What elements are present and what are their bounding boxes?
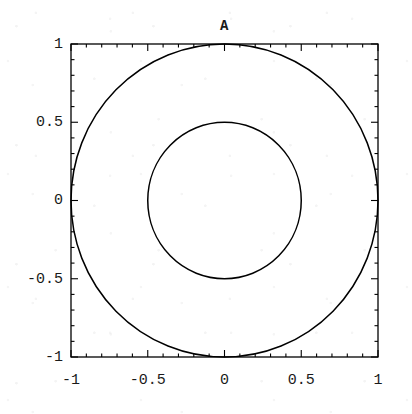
x-tick-label-1: 1 bbox=[373, 373, 382, 388]
x-tick-label-0_5: 0.5 bbox=[288, 373, 315, 388]
x-tick-label-0: 0 bbox=[220, 373, 229, 388]
y-tick-label-neg1: -1 bbox=[10, 350, 63, 365]
plot-frame bbox=[71, 44, 378, 357]
inner-circle bbox=[148, 122, 302, 279]
y-tick-label-0_5: 0.5 bbox=[10, 115, 63, 130]
y-tick-label-0: 0 bbox=[10, 193, 63, 208]
outer-circle bbox=[71, 44, 378, 357]
x-tick-label-neg0_5: -0.5 bbox=[130, 373, 166, 388]
x-tick-label-neg1: -1 bbox=[62, 373, 80, 388]
tick-marks bbox=[71, 44, 378, 357]
y-tick-label-neg0_5: -0.5 bbox=[10, 272, 63, 287]
y-tick-label-1: 1 bbox=[10, 37, 63, 52]
figure-canvas: A bbox=[0, 0, 412, 414]
